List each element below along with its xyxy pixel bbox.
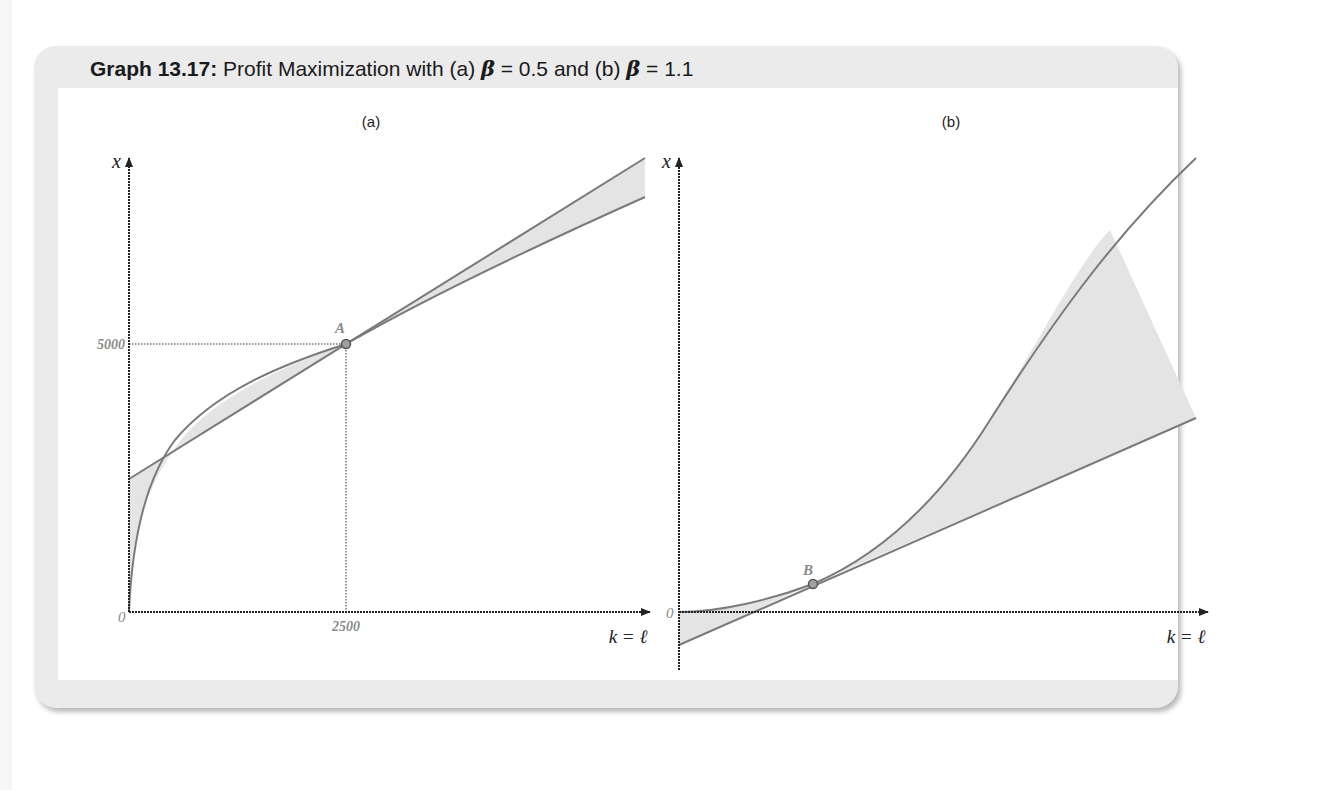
- panel-a-label: (a): [362, 113, 380, 130]
- panel-a-y-axis-label: x: [111, 150, 121, 172]
- panel-b-origin-label: 0: [666, 605, 674, 621]
- panel-b-y-axis-label: x: [661, 150, 671, 172]
- panel-b-x-axis-label: k = ℓ: [1167, 626, 1206, 647]
- panel-a: (a) x k = ℓ 0 5000 2500 A: [97, 113, 650, 647]
- panel-b: (b) x k = ℓ 0 B: [661, 113, 1208, 670]
- point-b-label: B: [802, 562, 813, 578]
- panel-b-shade-right: [813, 230, 1196, 584]
- point-b: [809, 580, 818, 589]
- panel-a-x-axis-label: k = ℓ: [609, 626, 648, 647]
- chart-canvas: (a) x k = ℓ 0 5000 2500 A (b): [0, 0, 1338, 790]
- panel-b-tangent-line: [679, 418, 1196, 645]
- panel-a-origin-label: 0: [118, 609, 126, 625]
- point-a: [342, 340, 351, 349]
- panel-a-production-curve: [129, 197, 645, 612]
- panel-b-label: (b): [942, 113, 960, 130]
- panel-a-tangent-line: [129, 158, 645, 479]
- panel-a-shade-left: [129, 344, 346, 612]
- panel-a-x-tick-2500: 2500: [331, 619, 360, 634]
- panel-a-y-tick-5000: 5000: [97, 337, 125, 352]
- point-a-label: A: [334, 320, 345, 336]
